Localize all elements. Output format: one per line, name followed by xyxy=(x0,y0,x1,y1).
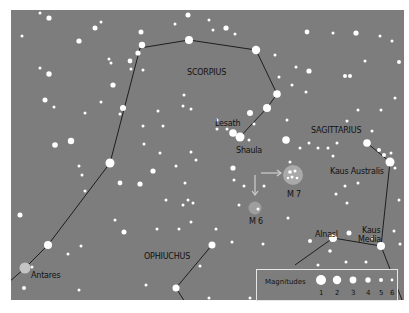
mag-2-star-icon xyxy=(333,276,341,284)
star-label-kaus-australis: Kaus Australis xyxy=(330,167,384,176)
star-label-shaula: Shaula xyxy=(236,146,262,155)
pointer-arrows xyxy=(252,170,281,195)
star-label-kaus-media-2: Media xyxy=(358,235,381,244)
star-label-antares: Antares xyxy=(31,271,60,280)
legend-star-sizes xyxy=(257,270,399,302)
star-label-alnasl: Alnasl xyxy=(315,230,338,239)
mag-label-4: 4 xyxy=(366,289,370,297)
constellation-label-sagittarius: SAGITTARIUS xyxy=(311,126,361,135)
mag-5-star-icon xyxy=(379,278,383,282)
sagittarius-line xyxy=(295,143,390,265)
mag-1-star-icon xyxy=(316,275,326,285)
star-chart: SCORPIUS SAGITTARIUS OPHIUCHUS Lesath Sh… xyxy=(11,10,404,300)
mag-6-star-icon xyxy=(391,279,394,282)
star-label-kaus-media-1: Kaus xyxy=(362,226,380,235)
magnitude-legend: Magnitudes 1 2 3 4 5 6 xyxy=(256,269,398,301)
mag-label-2: 2 xyxy=(335,289,339,297)
mag-label-5: 5 xyxy=(379,289,383,297)
star-antares xyxy=(20,263,31,274)
cluster-label-m6: M 6 xyxy=(249,217,263,226)
stars xyxy=(18,12,402,300)
mag-3-star-icon xyxy=(350,277,357,284)
star-chart-graphics xyxy=(11,10,404,300)
mag-label-6: 6 xyxy=(390,289,394,297)
star-label-lesath: Lesath xyxy=(215,119,240,128)
constellation-label-scorpius: SCORPIUS xyxy=(187,68,226,77)
cluster-label-m7: M 7 xyxy=(287,190,301,199)
mag-label-1: 1 xyxy=(319,289,323,297)
mag-label-3: 3 xyxy=(351,289,355,297)
constellation-label-ophiuchus: OPHIUCHUS xyxy=(144,252,190,261)
mag-4-star-icon xyxy=(365,277,370,282)
cluster-m6 xyxy=(249,202,262,215)
cluster-m7 xyxy=(283,165,303,185)
